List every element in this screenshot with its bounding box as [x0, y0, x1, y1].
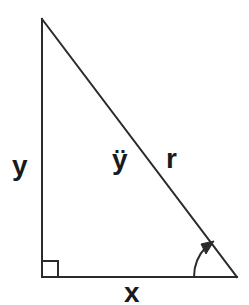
label-vertical-leg: y	[12, 152, 28, 180]
label-horizontal-leg: x	[124, 279, 140, 305]
label-hypotenuse: r	[166, 145, 177, 173]
label-hypotenuse-inner: ÿ	[112, 146, 128, 174]
triangle-diagram: y ÿ r x	[0, 0, 249, 305]
